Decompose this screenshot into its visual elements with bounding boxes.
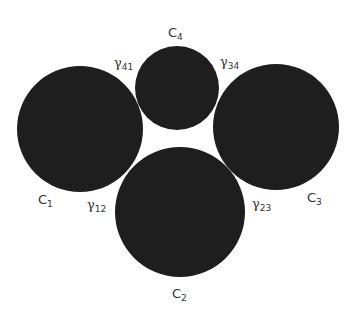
label-gamma34: γ34 <box>220 55 239 71</box>
circle-c3 <box>213 64 339 190</box>
label-gamma12-sub: 12 <box>95 204 106 214</box>
label-c2-letter: C <box>172 286 181 301</box>
label-gamma41: γ41 <box>114 56 133 72</box>
circle-c2 <box>115 147 245 277</box>
label-gamma41-symbol: γ <box>114 55 122 70</box>
circles-diagram <box>0 0 356 313</box>
label-c2: C2 <box>172 287 187 303</box>
label-c1-letter: C <box>38 192 47 207</box>
label-c3: C3 <box>307 191 322 207</box>
label-c1: C1 <box>38 193 53 209</box>
label-gamma41-sub: 41 <box>122 62 133 72</box>
label-c4-sub: 4 <box>177 32 183 42</box>
label-gamma23: γ23 <box>252 197 271 213</box>
circle-c1 <box>17 66 143 192</box>
label-c1-sub: 1 <box>47 199 53 209</box>
label-gamma34-symbol: γ <box>220 54 228 69</box>
label-gamma12: γ12 <box>87 198 106 214</box>
label-gamma23-sub: 23 <box>260 203 271 213</box>
label-gamma12-symbol: γ <box>87 197 95 212</box>
label-c4: C4 <box>168 26 183 42</box>
label-c2-sub: 2 <box>181 293 187 303</box>
label-gamma34-sub: 34 <box>228 61 239 71</box>
circle-c4 <box>135 46 219 130</box>
label-c3-letter: C <box>307 190 316 205</box>
label-c3-sub: 3 <box>316 197 322 207</box>
label-gamma23-symbol: γ <box>252 196 260 211</box>
label-c4-letter: C <box>168 25 177 40</box>
